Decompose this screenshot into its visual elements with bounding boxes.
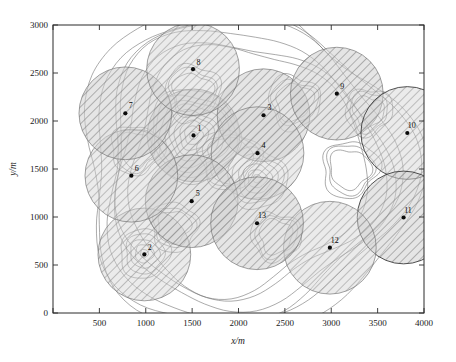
node-label: 1 bbox=[198, 124, 202, 133]
x-tick-label: 3500 bbox=[369, 318, 388, 328]
y-tick-label: 0 bbox=[44, 308, 49, 318]
y-tick-label: 3000 bbox=[30, 20, 49, 30]
node-marker[interactable] bbox=[328, 246, 332, 250]
node-marker[interactable] bbox=[191, 67, 195, 71]
node-marker[interactable] bbox=[405, 131, 409, 135]
x-tick-label: 500 bbox=[93, 318, 107, 328]
node-marker[interactable] bbox=[401, 215, 405, 219]
node-marker[interactable] bbox=[123, 111, 127, 115]
x-tick-label: 4000 bbox=[415, 318, 434, 328]
node-marker[interactable] bbox=[255, 221, 259, 225]
y-tick-label: 500 bbox=[35, 260, 49, 270]
node-marker[interactable] bbox=[255, 151, 259, 155]
node-label: 11 bbox=[404, 206, 412, 215]
y-tick-label: 2500 bbox=[30, 68, 49, 78]
y-axis-title: y/m bbox=[8, 162, 18, 177]
node-marker[interactable] bbox=[261, 113, 265, 117]
node-label: 8 bbox=[197, 58, 201, 67]
node-label: 12 bbox=[331, 236, 339, 245]
node-marker[interactable] bbox=[142, 252, 146, 256]
x-tick-label: 3000 bbox=[322, 318, 341, 328]
x-tick-label: 2500 bbox=[276, 318, 295, 328]
node-label: 7 bbox=[129, 101, 133, 110]
x-tick-label: 1500 bbox=[183, 318, 202, 328]
node-label: 5 bbox=[196, 189, 200, 198]
node-label: 13 bbox=[258, 211, 266, 220]
node-marker[interactable] bbox=[335, 92, 339, 96]
node-label: 6 bbox=[135, 164, 139, 173]
node-label: 2 bbox=[148, 243, 152, 252]
x-tick-label: 1000 bbox=[137, 318, 156, 328]
node-label: 9 bbox=[340, 82, 344, 91]
node-marker[interactable] bbox=[190, 199, 194, 203]
coverage-contour-plot: 12345678910111213 5001000150020002500300… bbox=[0, 0, 456, 362]
y-tick-label: 1500 bbox=[30, 164, 49, 174]
x-tick-label: 2000 bbox=[230, 318, 249, 328]
node-marker[interactable] bbox=[129, 174, 133, 178]
x-axis-title: x/m bbox=[230, 336, 245, 346]
y-tick-label: 2000 bbox=[30, 116, 49, 126]
figure-container: 12345678910111213 5001000150020002500300… bbox=[0, 0, 456, 362]
node-label: 10 bbox=[408, 121, 416, 130]
node-label: 3 bbox=[268, 103, 272, 112]
node-label: 4 bbox=[262, 141, 266, 150]
node-marker[interactable] bbox=[191, 133, 195, 137]
y-tick-label: 1000 bbox=[30, 212, 49, 222]
